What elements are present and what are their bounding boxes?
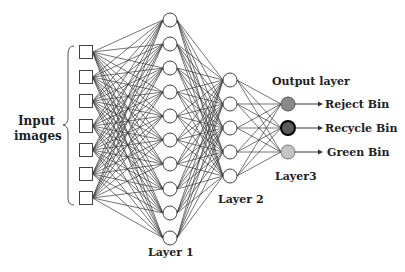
layer2-node	[223, 121, 237, 135]
output-node	[281, 97, 295, 111]
network-svg: Input images Layer 1 Layer 2 Layer3 Outp…	[0, 0, 405, 272]
layer2-node	[223, 169, 237, 183]
layer1-node	[163, 182, 177, 196]
connection-edge	[177, 152, 223, 238]
connection-edge	[177, 80, 223, 140]
output-arrows	[295, 102, 323, 155]
connection-edge	[177, 80, 223, 92]
layer2-node	[223, 97, 237, 111]
arrow-head-icon	[318, 102, 323, 107]
layer1-node	[163, 231, 177, 245]
layer1-node	[163, 157, 177, 171]
connection-edge	[93, 68, 164, 198]
input-label-line1: Input	[18, 114, 55, 128]
input-brace-icon	[63, 46, 74, 205]
layer2-node	[223, 145, 237, 159]
layer1-node	[163, 61, 177, 75]
layer1-node	[163, 133, 177, 147]
layer1-node	[163, 37, 177, 51]
connection-edge	[93, 20, 164, 77]
output-node	[281, 145, 295, 159]
input-node	[80, 71, 93, 84]
output-label-reject: Reject Bin	[325, 98, 389, 111]
input-node	[80, 168, 93, 181]
input-node	[80, 95, 93, 108]
layer1-label: Layer 1	[148, 246, 194, 259]
connection-edge	[93, 44, 164, 52]
arrow-head-icon	[318, 126, 323, 131]
connection-edge	[237, 104, 281, 176]
output-label-green: Green Bin	[327, 146, 390, 159]
layer2-label: Layer 2	[218, 193, 264, 206]
neural-network-diagram: Input images Layer 1 Layer 2 Layer3 Outp…	[0, 0, 405, 272]
input-label-line2: images	[14, 129, 62, 143]
connection-edge	[93, 174, 164, 238]
layer1-node	[163, 85, 177, 99]
connection-edge	[177, 68, 223, 80]
layer1-node	[163, 13, 177, 27]
output-label-recycle: Recycle Bin	[325, 122, 397, 135]
arrow-head-icon	[318, 150, 323, 155]
input-node	[80, 192, 93, 205]
connection-edge	[177, 128, 223, 238]
connection-edge	[93, 20, 164, 198]
output-layer-label: Output layer	[272, 75, 350, 88]
input-node	[80, 46, 93, 59]
layer2-node	[223, 73, 237, 87]
input-node	[80, 120, 93, 133]
layer3-label: Layer3	[275, 170, 317, 183]
connection-edge	[93, 150, 164, 238]
layer1-node	[163, 206, 177, 220]
connection-edge	[177, 20, 223, 80]
connection-edge	[177, 176, 223, 238]
layer1-node	[163, 109, 177, 123]
output-node	[281, 121, 295, 135]
input-node	[80, 144, 93, 157]
